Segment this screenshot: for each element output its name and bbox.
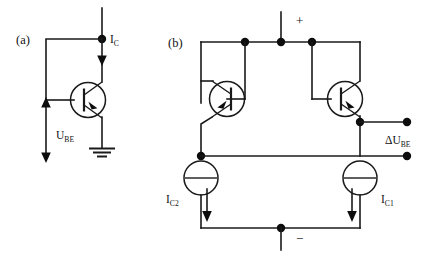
transistor-b-right-envelope xyxy=(328,82,363,117)
label-supply-positive: + xyxy=(296,13,303,28)
transistor-a-envelope xyxy=(71,83,106,118)
current-source-right xyxy=(343,161,377,228)
label-ic2: IC2 xyxy=(166,193,179,208)
current-arrow-ic2 xyxy=(202,189,212,222)
output-terminal-top xyxy=(403,118,411,126)
circuit-diagram: (a) IC UBE xyxy=(0,0,435,253)
output-terminal-bottom xyxy=(403,152,411,160)
transistor-b-right xyxy=(328,81,363,117)
voltage-arrow-ube xyxy=(41,97,51,163)
label-delta-ube: ΔUBE xyxy=(385,134,411,149)
panel-b-label: (b) xyxy=(168,36,183,50)
ground-symbol xyxy=(89,149,115,157)
panel-a: (a) IC UBE xyxy=(16,8,119,163)
label-ube: UBE xyxy=(56,129,74,144)
transistor-a xyxy=(71,82,106,118)
panel-b-left-emitter-wire xyxy=(201,117,212,156)
panel-a-label: (a) xyxy=(16,33,30,47)
node-dot-top-center xyxy=(277,38,285,46)
label-supply-negative: − xyxy=(296,231,303,246)
panel-a-base-wire-top xyxy=(46,39,102,100)
current-source-left xyxy=(184,161,218,228)
current-arrow-ic xyxy=(97,56,107,67)
label-ic: IC xyxy=(110,33,119,48)
label-ic1: IC1 xyxy=(381,193,394,208)
figure-root: (a) IC UBE xyxy=(0,0,435,253)
panel-b: (b) + − ΔUBE IC2 IC1 xyxy=(166,12,411,250)
